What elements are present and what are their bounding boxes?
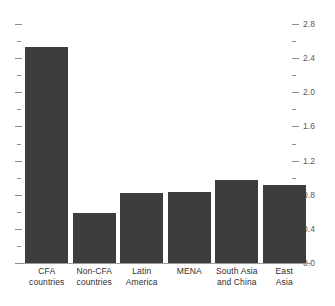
bar <box>73 213 116 263</box>
category-label-line: East <box>255 266 315 277</box>
bar <box>120 193 163 263</box>
bars-group <box>0 0 335 263</box>
bar <box>215 180 258 263</box>
x-axis-baseline <box>22 263 312 264</box>
bar <box>263 185 306 263</box>
bar-chart: 0.00.40.81.21.62.02.42.8 CFAcountriesNon… <box>0 0 335 306</box>
x-axis-category-labels: CFAcountriesNon-CFAcountriesLatinAmerica… <box>0 266 335 306</box>
category-label: EastAsia <box>255 266 315 288</box>
category-label-line: America <box>112 277 172 288</box>
bar <box>168 192 211 263</box>
left-tick-major <box>15 263 22 264</box>
category-label-line: Asia <box>255 277 315 288</box>
bar <box>25 47 68 263</box>
